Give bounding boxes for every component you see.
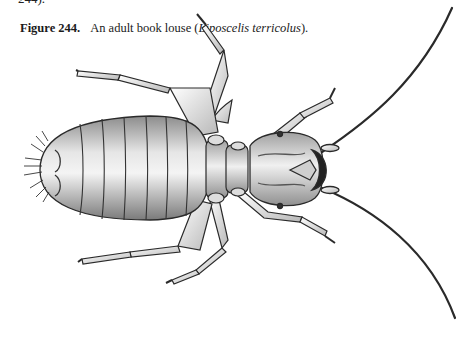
antenna-upper — [322, 8, 452, 152]
head — [250, 132, 339, 209]
book-louse-illustration — [0, 0, 467, 341]
thorax — [206, 135, 248, 203]
antenna-lower — [322, 188, 455, 318]
abdomen — [24, 116, 210, 220]
